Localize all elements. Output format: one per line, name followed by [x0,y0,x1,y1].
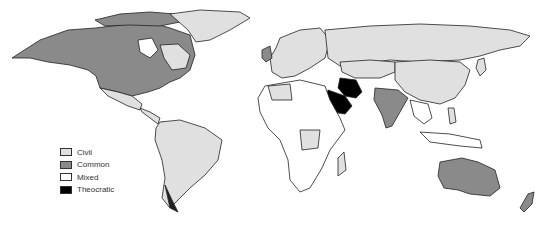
region-arctic-islands [95,12,180,26]
region-central-asia [340,60,395,78]
region-japan [476,58,486,76]
swatch-common [60,161,72,169]
region-russia [325,24,530,66]
legend-label-common: Common [77,160,109,169]
legend-item-civil: Civil [60,146,114,159]
region-indonesia [420,132,482,148]
swatch-theocratic [60,186,72,194]
legend-item-mixed: Mixed [60,171,114,184]
region-central-america [140,108,160,124]
world-legal-systems-map [0,0,550,236]
legend-item-theocratic: Theocratic [60,184,114,197]
region-central-africa-civil [300,130,320,150]
legend: Civil Common Mixed Theocratic [60,146,114,196]
region-madagascar [338,152,346,176]
region-europe [270,28,330,78]
region-australia [438,158,500,196]
swatch-mixed [60,173,72,181]
legend-label-mixed: Mixed [77,173,98,182]
swatch-civil [60,148,72,156]
legend-label-theocratic: Theocratic [77,185,114,194]
region-southeast-asia [410,100,432,124]
region-philippines [448,108,456,124]
legend-item-common: Common [60,159,114,172]
legend-label-civil: Civil [77,148,92,157]
region-north-africa-civil [268,84,292,100]
region-new-zealand [520,192,534,212]
region-south-america [155,120,222,208]
region-india [374,88,408,128]
